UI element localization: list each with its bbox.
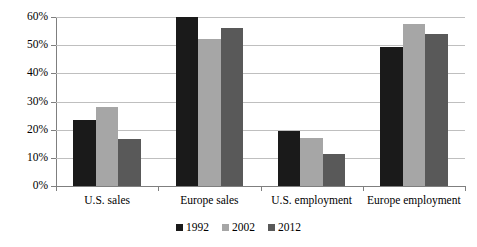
x-axis-tick [56,187,57,191]
y-axis-label: 60% [0,11,48,23]
plot-area [56,17,465,186]
x-axis-tick [465,187,466,191]
bar [425,34,448,186]
x-axis-category-label: U.S. employment [271,194,352,207]
y-axis-label: 10% [0,152,48,164]
bar [73,120,96,186]
legend-label: 2012 [278,222,301,234]
bar [403,24,426,186]
y-axis-label: 50% [0,39,48,51]
y-axis-label: 30% [0,96,48,108]
x-axis-category-label: Europe employment [367,194,461,207]
legend-label: 2002 [232,222,255,234]
chart-legend: 199220022012 [0,222,477,234]
bar [300,138,323,186]
legend-swatch-icon [222,224,229,231]
bar [96,107,119,186]
x-axis-category-label: U.S. sales [84,194,130,207]
x-axis-tick [158,187,159,191]
legend-swatch-icon [268,224,275,231]
x-axis-tick [261,187,262,191]
x-axis-category-label: Europe sales [180,194,238,207]
bar [278,131,301,186]
bar-chart: 0%10%20%30%40%50%60% U.S. salesEurope sa… [0,0,477,247]
bar [323,154,346,186]
x-axis-tick [363,187,364,191]
bar [380,47,403,186]
bar [118,139,141,186]
legend-item[interactable]: 2002 [222,222,255,234]
bar [176,17,199,186]
grid-line [56,17,465,18]
y-axis-label: 20% [0,124,48,136]
y-axis-label: 0% [0,180,48,192]
bar [221,28,244,186]
bar [198,39,221,186]
legend-swatch-icon [176,224,183,231]
legend-item[interactable]: 1992 [176,222,209,234]
y-axis-label: 40% [0,68,48,80]
legend-label: 1992 [186,222,209,234]
legend-item[interactable]: 2012 [268,222,301,234]
